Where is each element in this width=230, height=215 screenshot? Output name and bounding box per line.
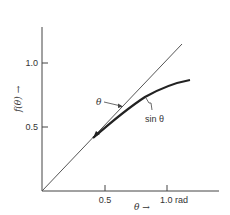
chart: 1.0 0.5 0.5 1.0 rad θ → f(θ) → θ sin θ [0, 0, 230, 215]
x-tick-label-05: 0.5 [99, 195, 112, 205]
y-tick-label-1: 1.0 [25, 58, 38, 68]
y-tick-label-05: 0.5 [25, 122, 38, 132]
x-tick-label-1: 1.0 rad [160, 195, 188, 205]
y-axis-label: f(θ) → [13, 85, 23, 113]
x-axis-label: θ → [134, 202, 150, 212]
sin-annotation-leader [146, 98, 152, 110]
theta-annotation: θ [96, 97, 102, 107]
sin-theta-curve [93, 80, 190, 138]
sin-theta-annotation: sin θ [145, 114, 164, 124]
